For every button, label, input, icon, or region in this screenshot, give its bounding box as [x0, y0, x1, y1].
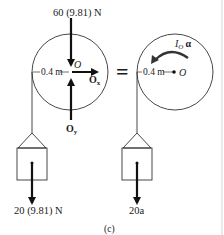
- kinetics-diagram: 60 (9.81) N O 0.4 m Ox Oy 20 (9.81) N = …: [0, 0, 224, 235]
- top-force-label: 60 (9.81) N: [53, 7, 102, 19]
- moment-label: IOα: [174, 38, 191, 51]
- kinetic-diagram: IOα 0.4 m O 20a: [122, 34, 213, 216]
- radius-label-kinetic: 0.4 m: [143, 67, 165, 77]
- moment-arrow: [155, 52, 188, 60]
- block-weight-label: 20 (9.81) N: [14, 205, 63, 217]
- free-body-diagram: 60 (9.81) N O 0.4 m Ox Oy 20 (9.81) N: [14, 7, 108, 217]
- equals-sign: =: [116, 59, 129, 84]
- center-label: O: [74, 59, 81, 70]
- center-label-kinetic: O: [179, 67, 186, 78]
- inertia-force-label: 20a: [129, 205, 145, 216]
- oy-label: Oy: [66, 123, 78, 136]
- radius-label: 0.4 m: [41, 67, 63, 77]
- ox-label: Ox: [89, 74, 101, 87]
- figure-caption: (c): [104, 224, 115, 235]
- hanger: [18, 133, 46, 148]
